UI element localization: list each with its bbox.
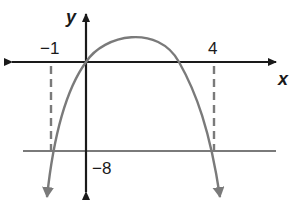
x-axis-label: x bbox=[278, 70, 288, 88]
y-axis-label: y bbox=[66, 8, 76, 26]
tick-label-neg1: −1 bbox=[40, 40, 59, 57]
tick-label-4: 4 bbox=[208, 40, 217, 57]
parabola-graph bbox=[0, 0, 308, 202]
tick-label-neg8: −8 bbox=[92, 160, 111, 177]
